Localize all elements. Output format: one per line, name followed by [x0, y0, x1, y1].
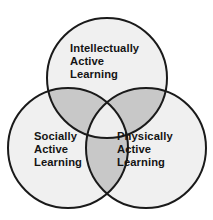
venn-diagram: Intellectually Active Learning Socially … — [0, 0, 213, 220]
label-line: Learning — [70, 68, 118, 80]
label-line: Learning — [34, 156, 82, 168]
label-line: Intellectually — [70, 42, 140, 54]
label-line: Active — [70, 55, 104, 67]
label-line: Socially — [34, 130, 78, 142]
label-line: Active — [34, 143, 68, 155]
label-line: Learning — [117, 156, 165, 168]
label-line: Active — [117, 143, 151, 155]
label-line: Physically — [117, 130, 173, 142]
venn-diagram-page: ▪▪▪▪▪ ▪▪▪▪▪▪ — [0, 0, 213, 220]
